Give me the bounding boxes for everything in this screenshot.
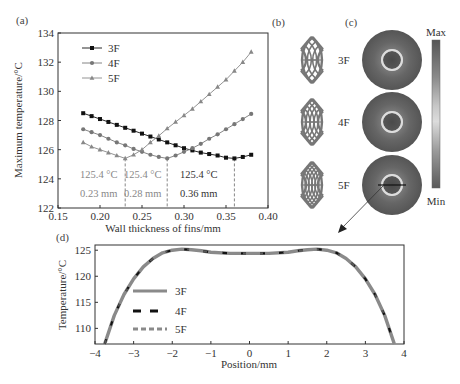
square-marker-icon xyxy=(199,151,203,155)
disk xyxy=(362,30,422,90)
y-tick-label: 125 xyxy=(75,244,92,256)
circle-marker-icon xyxy=(123,143,127,147)
minimum-temp-label: 125.4 °C xyxy=(180,169,217,180)
circle-marker-icon xyxy=(148,153,152,157)
x-tick-label: −2 xyxy=(166,347,178,359)
triangle-marker-icon xyxy=(131,152,136,156)
x-tick-label: 0.15 xyxy=(48,210,68,222)
triangle-marker-icon xyxy=(249,49,254,53)
circle-marker-icon xyxy=(207,137,211,141)
temperature-disk-3F xyxy=(362,30,422,90)
y-tick-label: 126 xyxy=(38,144,55,156)
triangle-marker-icon xyxy=(81,140,86,144)
y-tick-label: 128 xyxy=(38,115,55,127)
square-marker-icon xyxy=(182,146,186,150)
legend-label: 5F xyxy=(175,323,187,335)
fin-design-3F: 3F xyxy=(301,37,350,83)
triangle-marker-icon xyxy=(148,140,153,144)
circle-marker-icon xyxy=(132,147,136,151)
panel-d: (d) 110115120125 −4−3−2−101234 Temperatu… xyxy=(56,231,407,370)
fin-design-4F: 4F xyxy=(301,99,350,145)
legend-label: 3F xyxy=(108,42,120,54)
minimum-annotations: 125.4 °C0.23 mm125.4 °C0.28 mm125.4 °C0.… xyxy=(80,158,234,208)
disk xyxy=(362,92,422,152)
circle-marker-icon xyxy=(165,156,169,160)
x-tick-label: −1 xyxy=(205,347,217,359)
legend-label: 5F xyxy=(108,72,120,84)
square-marker-icon xyxy=(148,135,152,139)
square-marker-icon xyxy=(90,46,94,50)
circle-marker-icon xyxy=(115,140,119,144)
triangle-marker-icon xyxy=(165,126,170,130)
y-tick-label: 134 xyxy=(38,27,55,39)
x-tick-label: 2 xyxy=(324,347,330,359)
legend-d: 3F4F5F xyxy=(133,285,187,335)
y-axis-ticks-d: 110115120125 xyxy=(75,244,99,334)
square-marker-icon xyxy=(115,123,119,127)
x-tick-label: −4 xyxy=(89,347,101,359)
circle-marker-icon xyxy=(157,155,161,159)
circle-marker-icon xyxy=(174,153,178,157)
temperature-disk-4F xyxy=(362,92,422,152)
panel-c: (c) Max Min xyxy=(338,16,447,233)
minimum-thickness-label: 0.36 mm xyxy=(180,188,217,199)
x-tick-label: 4 xyxy=(401,347,407,359)
square-marker-icon xyxy=(216,154,220,158)
panel-b: (b) 3F4F5F xyxy=(272,16,350,208)
square-marker-icon xyxy=(123,126,127,130)
x-tick-label: 0.35 xyxy=(216,210,236,222)
square-marker-icon xyxy=(241,155,245,159)
panel-a-label: (a) xyxy=(16,14,29,27)
y-axis-label-d: Temperature/°C xyxy=(56,260,68,330)
fin-design-5F: 5F xyxy=(301,162,350,208)
minimum-temp-label: 125.4 °C xyxy=(80,169,117,180)
x-tick-label: 0.40 xyxy=(258,210,278,222)
circle-marker-icon xyxy=(90,61,94,65)
x-axis-label-a: Wall thickness of fins/mm xyxy=(105,222,221,234)
circle-marker-icon xyxy=(98,133,102,137)
panel-d-label: (d) xyxy=(56,231,69,244)
square-marker-icon xyxy=(249,153,253,157)
circle-marker-icon xyxy=(241,117,245,121)
design-label: 4F xyxy=(338,116,350,128)
circle-marker-icon xyxy=(190,146,194,150)
circle-marker-icon xyxy=(90,130,94,134)
y-tick-label: 130 xyxy=(38,85,55,97)
design-label: 3F xyxy=(338,54,350,66)
square-marker-icon xyxy=(174,143,178,147)
design-label: 5F xyxy=(338,179,350,191)
x-tick-label: 0.20 xyxy=(90,210,110,222)
x-axis-label-d: Position/mm xyxy=(221,358,278,370)
fin-edge xyxy=(301,196,311,208)
x-tick-label: 3 xyxy=(363,347,369,359)
panel-c-label: (c) xyxy=(345,16,358,29)
square-marker-icon xyxy=(90,114,94,118)
square-marker-icon xyxy=(132,129,136,133)
colorbar xyxy=(432,40,440,188)
y-axis-label-a: Maximum temperature/°C xyxy=(12,62,24,178)
y-axis-ticks-a: 122124126128130132134 xyxy=(38,27,62,214)
minimum-thickness-label: 0.23 mm xyxy=(80,188,117,199)
temperature-disk-5F xyxy=(362,155,422,215)
square-marker-icon xyxy=(140,132,144,136)
legend-label: 4F xyxy=(108,57,120,69)
colorbar-max-label: Max xyxy=(426,26,447,38)
square-marker-icon xyxy=(157,137,161,141)
pointer-arrow-head-icon xyxy=(338,224,347,233)
panel-a: (a) 122124126128130132134 0.150.200.250.… xyxy=(12,14,278,234)
square-marker-icon xyxy=(106,120,110,124)
triangle-marker-icon xyxy=(173,119,178,123)
square-marker-icon xyxy=(224,156,228,160)
y-tick-label: 132 xyxy=(38,56,55,68)
x-tick-label: 0.25 xyxy=(132,210,152,222)
x-tick-label: 0.30 xyxy=(174,210,194,222)
square-marker-icon xyxy=(98,117,102,121)
x-tick-label: −3 xyxy=(128,347,140,359)
y-tick-label: 124 xyxy=(38,173,55,185)
legend-label: 3F xyxy=(175,285,187,297)
fin-designs: 3F4F5F xyxy=(301,37,350,208)
circle-marker-icon xyxy=(81,127,85,131)
square-marker-icon xyxy=(232,156,236,160)
triangle-marker-icon xyxy=(182,113,187,117)
minimum-temp-label: 125.4 °C xyxy=(124,169,161,180)
